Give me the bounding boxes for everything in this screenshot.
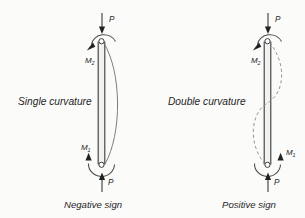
top-load-arrow-left <box>99 13 105 34</box>
figure-root: P M 2 M 1 P Sing <box>0 0 305 218</box>
bottom-load-label-right: P <box>274 178 280 187</box>
curvature-label-double: Double curvature <box>168 96 246 107</box>
bottom-load-arrow-left <box>99 173 105 193</box>
top-load-label-left: P <box>109 15 115 24</box>
sign-label-positive: Positive sign <box>222 199 276 210</box>
curvature-label-single: Single curvature <box>18 96 92 107</box>
sign-label-negative: Negative sign <box>64 199 122 210</box>
bottom-pin-node-right <box>265 162 270 167</box>
top-load-label-right: P <box>275 15 281 24</box>
top-moment-subscript-right: 2 <box>256 60 260 66</box>
top-moment-subscript-left: 2 <box>90 60 94 66</box>
column-member-left <box>98 42 105 165</box>
bottom-pin-node-left <box>99 162 104 167</box>
panel-single-curvature: P M 2 M 1 P Sing <box>18 13 122 210</box>
column-curvature-diagram: P M 2 M 1 P Sing <box>0 0 305 218</box>
column-member-right <box>264 42 271 165</box>
deflection-curve-single <box>104 43 118 165</box>
bottom-load-arrow-right <box>265 173 271 193</box>
top-load-arrow-right <box>265 13 271 34</box>
bottom-moment-subscript-left: 1 <box>87 147 90 153</box>
bottom-moment-subscript-right: 1 <box>292 152 295 158</box>
bottom-load-label-left: P <box>108 178 114 187</box>
panel-double-curvature: P M 2 M 1 P Doub <box>168 13 295 210</box>
top-pin-node-right <box>265 39 270 44</box>
